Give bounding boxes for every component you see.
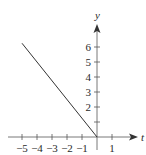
y-axis-label: y xyxy=(94,9,100,21)
y-tick-label: 3 xyxy=(86,86,92,98)
x-tick-label: −1 xyxy=(76,142,88,154)
x-tick-label: −3 xyxy=(46,142,58,154)
x-axis-label: t xyxy=(141,131,145,143)
y-axis: 23456 xyxy=(86,24,101,150)
x-axis: −5−4−3−2−11 xyxy=(8,134,138,155)
y-tick-label: 4 xyxy=(86,71,92,83)
x-tick-label: −5 xyxy=(16,142,28,154)
y-tick-label: 5 xyxy=(86,56,92,68)
y-tick-label: 2 xyxy=(86,101,92,113)
x-tick-label: −2 xyxy=(61,142,73,154)
x-tick-label: 1 xyxy=(109,142,115,154)
chart-container: −5−4−3−2−11 23456 t y xyxy=(0,0,146,155)
x-tick-label: −4 xyxy=(31,142,43,154)
y-tick-label: 6 xyxy=(86,41,92,53)
